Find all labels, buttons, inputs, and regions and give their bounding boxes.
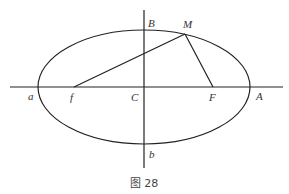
label-a: a <box>28 90 34 102</box>
label-b: b <box>149 148 155 160</box>
label-F: F <box>208 91 216 103</box>
label-C: C <box>131 91 139 103</box>
label-f: f <box>70 91 75 103</box>
segment-fM <box>74 34 185 87</box>
label-B: B <box>148 17 155 29</box>
ellipse-diagram: a f C F A B M b 图 28 <box>0 0 289 194</box>
figure-caption: 图 28 <box>130 177 159 190</box>
label-M: M <box>182 18 193 30</box>
label-A: A <box>255 90 263 102</box>
